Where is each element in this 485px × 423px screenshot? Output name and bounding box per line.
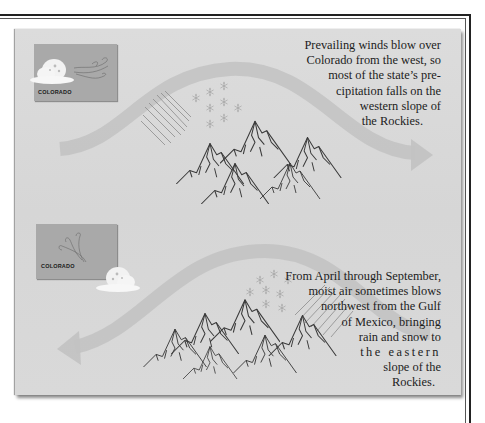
caption-line: slope of the — [285, 360, 441, 375]
caption-line: From April through September, — [285, 269, 441, 284]
caption-line: western slope of — [304, 99, 441, 114]
colorado-map-west: COLORADO — [34, 44, 117, 101]
caption-line: the Rockies. — [304, 114, 423, 129]
caption-line: cipitation falls on the — [304, 84, 441, 99]
caption-line: Rockies. — [285, 375, 435, 390]
frame-right-rule-inner — [465, 18, 466, 423]
caption-line: most of the state’s pre- — [304, 68, 441, 83]
map-label: COLORADO — [38, 89, 72, 95]
frame-top-rule — [0, 14, 470, 16]
map-label: COLORADO — [41, 263, 75, 269]
caption-line: moist air sometimes blows — [285, 284, 441, 299]
caption-line: the eastern — [285, 345, 441, 360]
caption-line: northwest from the Gulf — [285, 299, 441, 314]
cloud-icon — [28, 56, 78, 86]
cloud-icon — [94, 264, 144, 294]
mountains-icon — [176, 121, 341, 204]
caption-gulf-moisture: From April through September, moist air … — [285, 269, 441, 391]
frame-right-rule — [469, 14, 471, 423]
caption-line: of Mexico, bringing — [285, 315, 441, 330]
caption-line: Colorado from the west, so — [304, 53, 441, 68]
precipitation-diagram: COLORADO COLORADO Prevailing winds blow … — [15, 29, 461, 395]
caption-line: rain and snow to — [285, 330, 441, 345]
frame-top-rule-inner — [0, 18, 466, 19]
caption-line: Prevailing winds blow over — [304, 38, 441, 53]
caption-west-winds: Prevailing winds blow over Colorado from… — [304, 38, 441, 129]
snowflake-icon — [192, 82, 241, 128]
